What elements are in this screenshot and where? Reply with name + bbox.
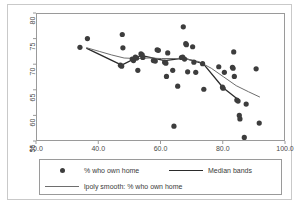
x-tick-label: 40.0 <box>83 145 113 152</box>
data-point <box>216 64 221 69</box>
data-point <box>244 102 249 107</box>
legend-entry-lpoly-smooth: lpoly smooth: % who own home <box>40 178 182 194</box>
data-point <box>221 86 226 91</box>
data-point <box>119 64 124 69</box>
data-point <box>231 49 236 54</box>
data-point <box>175 84 180 89</box>
data-point <box>165 50 170 55</box>
x-tick-label: 80.0 <box>208 145 238 152</box>
legend-entry-median-bands: Median bands <box>164 162 252 178</box>
plot-area <box>36 13 285 141</box>
plot-svg <box>37 14 285 141</box>
data-point <box>156 48 161 53</box>
legend-label-scatter: % who own home <box>84 167 139 174</box>
legend-label-lpoly-smooth: lpoly smooth: % who own home <box>84 183 182 190</box>
data-point <box>200 61 205 66</box>
data-point <box>190 44 195 49</box>
y-tick-label: 60 <box>29 114 36 132</box>
data-point <box>184 42 189 47</box>
x-tick-label: 100.0 <box>270 145 299 152</box>
data-point <box>120 45 125 50</box>
data-point <box>153 59 158 64</box>
data-point <box>181 24 186 29</box>
data-point <box>140 55 145 60</box>
x-tick-label: 60.0 <box>146 145 176 152</box>
data-point <box>254 66 259 71</box>
data-point <box>134 55 139 60</box>
data-point <box>232 74 237 79</box>
data-point <box>77 45 82 50</box>
legend-label-median-bands: Median bands <box>208 167 252 174</box>
data-point <box>191 60 196 65</box>
data-point <box>201 87 206 92</box>
line-thin-icon <box>40 186 84 187</box>
data-point <box>171 124 176 129</box>
y-tick-label: 80 <box>29 12 36 30</box>
data-point <box>85 36 90 41</box>
data-point <box>163 61 168 66</box>
data-point <box>230 66 235 71</box>
data-point <box>237 116 242 121</box>
data-point <box>135 68 140 73</box>
x-tick-label: 20.0 <box>21 145 51 152</box>
data-point <box>164 74 169 79</box>
marker-dot-icon <box>40 168 84 173</box>
series-line <box>87 48 240 100</box>
y-tick-label: 70 <box>29 63 36 81</box>
legend-entry-scatter: % who own home <box>40 162 139 178</box>
data-point <box>257 120 262 125</box>
data-point <box>185 69 190 74</box>
line-thick-icon <box>164 170 208 171</box>
y-tick-label: 65 <box>29 88 36 106</box>
data-point <box>120 32 125 37</box>
data-point <box>170 68 175 73</box>
data-point <box>193 70 198 75</box>
legend: % who own home Median bands lpoly smooth… <box>39 159 282 195</box>
y-tick-label: 75 <box>29 37 36 55</box>
data-point <box>242 135 247 140</box>
data-point <box>222 70 227 75</box>
data-point <box>235 98 240 103</box>
figure-canvas: 556065707580 20.040.060.080.0100.0 % who… <box>0 0 299 204</box>
data-point <box>182 56 187 61</box>
